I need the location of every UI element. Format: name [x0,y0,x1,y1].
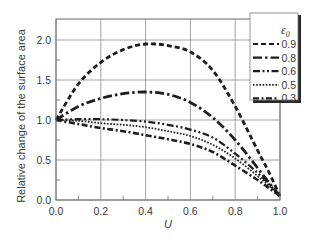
curve-eps-0_5 [56,120,280,196]
legend: ε00.90.80.60.50.3 [250,13,301,104]
legend-label: 0.5 [281,79,296,91]
y-tick-label: 0.5 [36,154,51,166]
x-axis-ticks: 0.00.20.40.60.81.0 [49,196,288,217]
x-tick-label: 0.8 [228,205,243,217]
y-tick-label: 2.0 [36,34,51,46]
x-tick-label: 1.0 [273,205,288,217]
legend-label: 0.8 [281,52,296,64]
y-axis-label: Relative change of the surface area [15,28,27,203]
chart: 0.00.20.40.60.81.0 0.00.51.01.52.0 U Rel… [0,0,310,242]
legend-label: 0.9 [281,38,296,50]
y-tick-label: 1.0 [36,114,51,126]
x-tick-label: 0.6 [183,205,198,217]
x-tick-label: 0.4 [138,205,153,217]
x-tick-label: 0.0 [49,205,64,217]
curve-eps-0_8 [56,92,280,196]
x-tick-label: 0.2 [93,205,108,217]
legend-label: 0.6 [281,65,296,77]
x-axis-label: U [164,218,172,230]
y-tick-label: 1.5 [36,74,51,86]
y-tick-label: 0.0 [36,194,51,206]
legend-label: 0.3 [281,92,296,104]
